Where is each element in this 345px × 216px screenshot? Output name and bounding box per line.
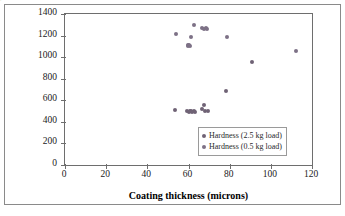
y-axis-title: Hardness (HV) <box>0 0 3 28</box>
data-point <box>250 60 254 64</box>
data-point <box>202 103 206 107</box>
data-point <box>174 32 178 36</box>
y-tick-label: 0 <box>17 159 57 169</box>
legend-label: Hardness (0.5 kg load) <box>209 141 282 152</box>
y-tick-label: 800 <box>17 73 57 83</box>
y-tick-label: 1000 <box>17 51 57 61</box>
x-axis-title: Coating thickness (microns) <box>64 190 313 201</box>
legend-item: Hardness (0.5 kg load) <box>202 141 282 152</box>
y-tick-mark <box>61 57 66 58</box>
legend-marker-icon <box>202 134 206 138</box>
y-tick-mark <box>61 36 66 37</box>
x-tick-label: 0 <box>44 170 84 180</box>
data-point <box>193 110 197 114</box>
x-tick-label: 120 <box>291 170 331 180</box>
y-tick-mark <box>61 100 66 101</box>
x-tick-label: 60 <box>168 170 208 180</box>
y-tick-mark <box>61 79 66 80</box>
y-tick-mark <box>61 143 66 144</box>
legend-item: Hardness (2.5 kg load) <box>202 130 282 141</box>
data-point <box>206 109 210 113</box>
y-tick-label: 200 <box>17 137 57 147</box>
x-tick-label: 80 <box>209 170 249 180</box>
data-point <box>224 89 228 93</box>
data-point <box>205 27 209 31</box>
data-point <box>189 35 193 39</box>
scatter-chart-figure: Hardness (HV) Coating thickness (microns… <box>0 0 345 216</box>
x-tick-label: 20 <box>85 170 125 180</box>
chart-legend: Hardness (2.5 kg load) Hardness (0.5 kg … <box>198 127 287 156</box>
y-tick-label: 1400 <box>17 8 57 18</box>
y-tick-mark <box>61 122 66 123</box>
data-point <box>294 49 298 53</box>
y-tick-mark <box>61 14 66 15</box>
x-tick-label: 40 <box>126 170 166 180</box>
legend-marker-icon <box>202 145 206 149</box>
y-tick-label: 400 <box>17 116 57 126</box>
y-tick-label: 1200 <box>17 30 57 40</box>
data-point <box>173 108 177 112</box>
x-tick-label: 100 <box>250 170 290 180</box>
data-point <box>188 44 192 48</box>
data-point <box>225 35 229 39</box>
data-point <box>192 23 196 27</box>
y-tick-label: 600 <box>17 94 57 104</box>
legend-label: Hardness (2.5 kg load) <box>209 130 282 141</box>
